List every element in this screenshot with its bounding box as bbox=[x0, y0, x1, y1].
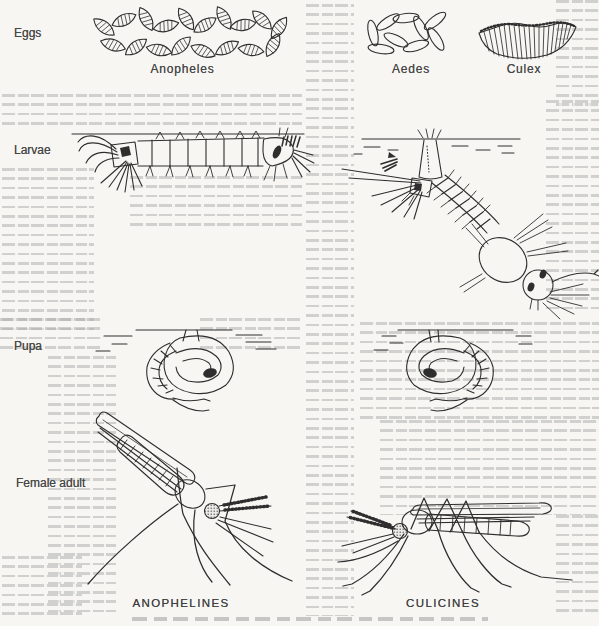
body-edges bbox=[432, 175, 499, 233]
head-lower-bristles bbox=[264, 164, 287, 181]
anopheles-eggs-drawing bbox=[90, 4, 291, 61]
dark-tuft bbox=[381, 159, 397, 171]
antenna bbox=[552, 270, 599, 282]
siphon-texture bbox=[427, 146, 429, 172]
culex-egg-raft-drawing bbox=[479, 22, 576, 59]
row-label-eggs: Eggs bbox=[14, 27, 41, 39]
palmate-hairs bbox=[156, 131, 260, 139]
leg bbox=[88, 504, 178, 584]
tuft-arrow bbox=[388, 152, 396, 158]
culicine-larva-drawing bbox=[342, 129, 599, 319]
tail-saddle bbox=[120, 146, 131, 157]
long-tail-hairs bbox=[342, 169, 421, 183]
thorax bbox=[169, 474, 210, 514]
egg-label-aedes: Aedes bbox=[380, 63, 442, 75]
head bbox=[523, 270, 553, 300]
water-dashes bbox=[374, 336, 532, 350]
segment-dividers bbox=[152, 138, 258, 166]
book-page: Eggs Larvae Pupa Female adult Anopheles … bbox=[0, 0, 599, 626]
column-label-anophelines: ANOPHELINES bbox=[111, 598, 251, 610]
cephalothorax bbox=[407, 336, 476, 394]
abdomen-bands bbox=[120, 440, 173, 486]
egg-label-culex: Culex bbox=[494, 63, 554, 75]
foreleg bbox=[338, 541, 398, 562]
wing-case bbox=[176, 349, 221, 382]
wing-case bbox=[419, 349, 464, 382]
paddles bbox=[173, 398, 210, 411]
ventral-bristles bbox=[146, 166, 251, 177]
tail-fan bbox=[372, 185, 422, 219]
water-dashes bbox=[96, 335, 276, 351]
culicine-pupa-drawing bbox=[374, 330, 532, 411]
leg bbox=[177, 468, 230, 585]
leg bbox=[194, 510, 212, 582]
row-label-female-adult: Female adult bbox=[16, 477, 85, 489]
anopheline-larva-drawing bbox=[72, 128, 314, 192]
water-dashes bbox=[354, 146, 514, 154]
egg-label-anopheles: Anopheles bbox=[140, 63, 225, 75]
siphon-bristles bbox=[418, 129, 441, 138]
culicine-adult-drawing bbox=[338, 498, 572, 595]
anal-saddle bbox=[414, 183, 422, 191]
eye bbox=[526, 282, 535, 293]
leg bbox=[479, 532, 572, 580]
cephalothorax bbox=[164, 336, 233, 394]
anopheline-pupa-drawing bbox=[96, 330, 276, 411]
column-label-culicines: CULICINES bbox=[383, 598, 503, 610]
thorax bbox=[470, 228, 535, 291]
segment-rungs bbox=[435, 178, 490, 229]
leg bbox=[438, 530, 479, 592]
head-bristles-up bbox=[279, 128, 288, 137]
tail-plumes bbox=[78, 136, 119, 172]
raft-stippled-top bbox=[481, 22, 574, 31]
head bbox=[205, 504, 220, 519]
siphon bbox=[419, 140, 442, 179]
head-comb bbox=[282, 136, 300, 147]
eye bbox=[271, 144, 283, 160]
row-label-pupa: Pupa bbox=[14, 340, 42, 352]
aedes-eggs-drawing bbox=[366, 9, 448, 55]
antennae-whorls bbox=[348, 511, 392, 528]
antenna-brushes bbox=[292, 150, 314, 177]
wing-vein bbox=[418, 508, 540, 509]
mouth-brushes bbox=[530, 284, 589, 319]
head bbox=[393, 524, 408, 539]
row-label-larvae: Larvae bbox=[14, 144, 51, 156]
mosquito-lifecycle-figure bbox=[0, 0, 599, 626]
leg bbox=[362, 536, 408, 595]
leg bbox=[462, 531, 511, 587]
body-outline bbox=[138, 138, 264, 166]
anopheline-adult-drawing bbox=[88, 412, 292, 585]
paddles bbox=[430, 398, 467, 411]
proboscis-and-palps bbox=[342, 534, 394, 553]
